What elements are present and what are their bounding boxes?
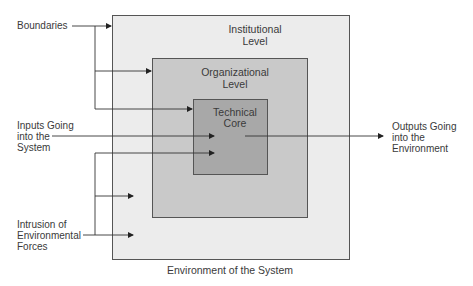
connector-lines bbox=[0, 0, 473, 286]
